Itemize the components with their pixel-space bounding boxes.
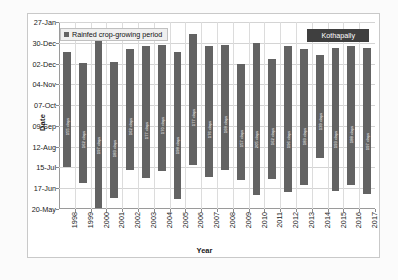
gridline-vertical: [170, 22, 171, 209]
gridline-vertical: [264, 22, 265, 209]
legend-label: Rainfed crop-growing period: [72, 30, 162, 39]
bar: 139 days: [316, 55, 324, 158]
y-tick-label: 27-Jan: [34, 18, 56, 27]
x-tick-label: 2005: [181, 212, 190, 228]
bar: 197 days: [363, 48, 371, 194]
x-tick-label: 2009: [244, 212, 253, 228]
x-tick-label: 1998: [70, 212, 79, 228]
y-tick-label: 07-Oct: [34, 101, 56, 110]
bar-value-label: 176 days: [207, 121, 212, 138]
plot-area: 27-Jan30-Dec02-Dec04-Nov07-Oct09-Sep12-A…: [59, 22, 375, 209]
bar-value-label: 162 days: [128, 118, 133, 135]
x-tick-label: 2015: [339, 212, 348, 228]
y-tick-mark: [56, 22, 59, 23]
x-tick-label: 1999: [86, 212, 95, 228]
gridline-vertical: [312, 22, 313, 209]
bar-value-label: 155 days: [64, 117, 69, 134]
bar-value-label: 205 days: [254, 131, 259, 148]
x-tick-label: 2006: [196, 212, 205, 228]
y-tick-label: 04-Nov: [32, 80, 56, 89]
bar-value-label: 183 days: [301, 127, 306, 144]
x-tick-label: 2011: [275, 212, 284, 228]
bar: 157 days: [237, 64, 245, 181]
bar: 155 days: [63, 52, 71, 167]
x-tick-label: 2013: [307, 212, 316, 228]
y-tick-mark: [56, 188, 59, 189]
bar: 162 days: [126, 49, 134, 169]
y-tick-label: 30-Dec: [32, 38, 56, 47]
gridline-vertical: [217, 22, 218, 209]
x-tick-label: 2012: [291, 212, 300, 228]
x-tick-label: 2000: [102, 212, 111, 228]
gridline-vertical: [201, 22, 202, 209]
gridline-vertical: [154, 22, 155, 209]
gridline-vertical: [75, 22, 76, 209]
chart-figure: Date Year 27-Jan30-Dec02-Dec04-Nov07-Oct…: [0, 0, 398, 280]
y-tick-label: 09-Sep: [32, 121, 56, 130]
y-tick-label: 20-May: [32, 205, 56, 214]
x-tick-label: 2017: [370, 212, 379, 228]
y-tick-mark: [56, 209, 59, 210]
bar-value-label: 188 days: [349, 126, 354, 143]
x-tick-label: 2004: [165, 212, 174, 228]
chart-legend: Rainfed crop-growing period: [60, 28, 168, 41]
bar: 168 days: [221, 45, 229, 170]
gridline-vertical: [359, 22, 360, 209]
y-tick-label: 12-Aug: [32, 142, 56, 151]
bar: 162 days: [268, 59, 276, 179]
x-tick-label: 2008: [228, 212, 237, 228]
y-tick-label: 15-Jul: [36, 163, 56, 172]
gridline-vertical: [328, 22, 329, 209]
bar-value-label: 170 days: [159, 117, 164, 134]
bar: 183 days: [300, 49, 308, 185]
x-tick-label: 2010: [260, 212, 269, 228]
bar-value-label: 168 days: [222, 116, 227, 133]
y-tick-mark: [56, 167, 59, 168]
gridline-vertical: [343, 22, 344, 209]
gridline-vertical: [280, 22, 281, 209]
y-tick-mark: [56, 147, 59, 148]
bar: 177 days: [142, 46, 150, 177]
bar: 170 days: [158, 45, 166, 171]
bar: 193 days: [332, 48, 340, 191]
bar: 162 days: [79, 63, 87, 183]
bar-value-label: 177 days: [143, 122, 148, 139]
bar-value-label: 139 days: [317, 112, 322, 129]
gridline-vertical: [91, 22, 92, 209]
gridline-vertical: [249, 22, 250, 209]
x-tick-label: 2014: [323, 212, 332, 228]
bar: 196 days: [284, 46, 292, 191]
bar: 177 days: [189, 34, 197, 165]
bar: 198 days: [174, 52, 182, 199]
bar-value-label: 157 days: [238, 130, 243, 147]
bar-value-label: 193 days: [333, 131, 338, 148]
bar-value-label: 197 days: [365, 132, 370, 149]
plot-frame: Date Year 27-Jan30-Dec02-Dec04-Nov07-Oct…: [27, 13, 380, 258]
gridline-vertical: [138, 22, 139, 209]
y-tick-mark: [56, 105, 59, 106]
bar-value-label: 162 days: [80, 131, 85, 148]
gridline-vertical: [106, 22, 107, 209]
x-tick-label: 2003: [149, 212, 158, 228]
x-tick-label: 2007: [212, 212, 221, 228]
gridline-vertical: [296, 22, 297, 209]
bar: 183 days: [110, 62, 118, 198]
bar: 176 days: [205, 46, 213, 177]
bar-value-label: 196 days: [286, 130, 291, 147]
bar-value-label: 183 days: [112, 140, 117, 157]
bar: 197 days: [95, 38, 103, 207]
bar-value-label: 162 days: [270, 127, 275, 144]
site-label: Kothapally: [307, 29, 369, 42]
gridline-vertical: [185, 22, 186, 209]
gridline-vertical: [122, 22, 123, 209]
x-axis-title: Year: [28, 246, 381, 255]
x-tick-label: 2016: [354, 212, 363, 228]
y-tick-label: 17-Jun: [34, 184, 56, 193]
bar-value-label: 177 days: [191, 109, 196, 126]
bar: 188 days: [347, 46, 355, 186]
y-axis-line: [59, 22, 60, 209]
bar-value-label: 197 days: [96, 137, 101, 154]
legend-swatch-icon: [64, 32, 69, 37]
y-tick-mark: [56, 126, 59, 127]
gridline-vertical: [233, 22, 234, 209]
